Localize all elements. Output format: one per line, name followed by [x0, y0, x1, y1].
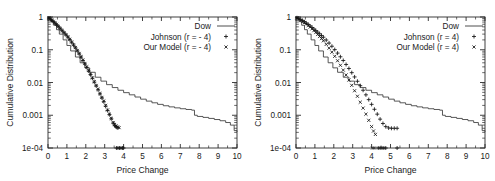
y-tick-label: 0.001 — [23, 111, 44, 120]
chart-left-canvas: 01234567891010.10.010.0011e-04Price Chan… — [0, 0, 247, 181]
series-1 — [47, 16, 126, 150]
legend-label: Johnson (r = - 4) — [151, 33, 212, 42]
x-tick-label: 2 — [84, 152, 89, 161]
y-tick-label: 1 — [38, 13, 43, 22]
y-tick-label: 0.001 — [271, 111, 292, 120]
x-tick-label: 5 — [388, 152, 393, 161]
x-tick-label: 10 — [232, 152, 242, 161]
y-tick-label: 1 — [286, 13, 291, 22]
legend-label: Dow — [443, 22, 459, 31]
x-tick-label: 5 — [140, 152, 145, 161]
y-tick-label: 0.1 — [32, 46, 44, 55]
x-tick-label: 4 — [121, 152, 126, 161]
x-tick-label: 2 — [332, 152, 337, 161]
legend-label: Johnson (r = 4) — [404, 33, 460, 42]
y-tick-label: 0.01 — [27, 79, 43, 88]
legend-label: Dow — [195, 22, 211, 31]
x-tick-label: 0 — [294, 152, 299, 161]
legend-sample — [224, 45, 227, 48]
y-tick-label: 0.1 — [280, 46, 292, 55]
series-1 — [295, 16, 399, 150]
y-axis-title: Cumulative Distribution — [5, 38, 15, 127]
y-axis-title: Cumulative Distribution — [253, 38, 263, 127]
x-tick-label: 6 — [407, 152, 412, 161]
x-tick-label: 3 — [350, 152, 355, 161]
y-tick-label: 1e-04 — [270, 144, 291, 153]
x-tick-label: 8 — [197, 152, 202, 161]
x-tick-label: 8 — [445, 152, 450, 161]
x-axis-title: Price Change — [364, 165, 416, 175]
x-tick-label: 9 — [216, 152, 221, 161]
legend-sample — [472, 35, 476, 39]
legend-sample — [224, 35, 228, 39]
y-tick-label: 1e-04 — [22, 144, 43, 153]
x-tick-label: 1 — [313, 152, 318, 161]
legend-sample — [472, 45, 475, 48]
x-tick-label: 7 — [426, 152, 431, 161]
series-2 — [295, 16, 377, 149]
x-tick-label: 6 — [159, 152, 164, 161]
x-tick-label: 10 — [480, 152, 490, 161]
chart-right-canvas: 01234567891010.10.010.0011e-04Price Chan… — [248, 0, 495, 181]
x-tick-label: 1 — [65, 152, 70, 161]
chart-panel-left: 01234567891010.10.010.0011e-04Price Chan… — [0, 0, 247, 181]
x-tick-label: 7 — [178, 152, 183, 161]
x-axis-title: Price Change — [116, 165, 168, 175]
y-tick-label: 0.01 — [275, 79, 291, 88]
x-tick-label: 3 — [102, 152, 107, 161]
legend-label: Our Model (r = - 4) — [143, 43, 211, 52]
x-tick-label: 9 — [464, 152, 469, 161]
legend-label: Our Model (r = 4) — [396, 43, 459, 52]
x-tick-label: 0 — [46, 152, 51, 161]
series-2 — [47, 16, 120, 129]
figure-root: 01234567891010.10.010.0011e-04Price Chan… — [0, 0, 495, 181]
x-tick-label: 4 — [369, 152, 374, 161]
chart-panel-right: 01234567891010.10.010.0011e-04Price Chan… — [248, 0, 495, 181]
